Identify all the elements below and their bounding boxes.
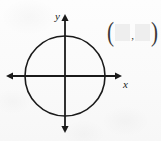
y-coordinate-input[interactable]	[135, 24, 150, 41]
close-paren: )	[151, 19, 158, 46]
x-axis-right-arrowhead	[115, 72, 122, 79]
open-paren: (	[107, 19, 114, 46]
x-axis-left-arrowhead	[6, 72, 13, 79]
x-coordinate-input[interactable]	[115, 24, 130, 41]
ordered-pair-entry: ( , )	[106, 19, 159, 45]
y-axis-bottom-arrowhead	[61, 126, 68, 133]
y-axis-top-arrowhead	[61, 14, 68, 21]
x-axis-label: x	[123, 79, 128, 90]
y-axis-label: y	[55, 11, 60, 22]
screenshot-root: y x ( , )	[0, 0, 161, 141]
